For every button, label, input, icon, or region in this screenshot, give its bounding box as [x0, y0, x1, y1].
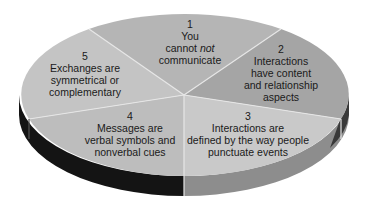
- slice-4-number: 4: [85, 110, 175, 122]
- slice-5-label: 5 Exchanges are symmetrical or complemen…: [49, 50, 121, 98]
- slice-2-line-3: and relationship: [244, 79, 318, 91]
- slice-3-line-1: Interactions are: [187, 122, 309, 134]
- slice-3-line-2: defined by the way people: [187, 134, 309, 146]
- slice-5-line-1: Exchanges are: [49, 62, 121, 74]
- slice-2-number: 2: [244, 43, 318, 55]
- slice-3-number: 3: [187, 110, 309, 122]
- slice-4-line-2: verbal symbols and: [85, 134, 175, 146]
- slice-2-line-2: have content: [244, 67, 318, 79]
- slice-3-line-3: punctuate events: [187, 146, 309, 158]
- slice-2-line-1: Interactions: [244, 55, 318, 67]
- slice-1-line-3: communicate: [159, 54, 221, 66]
- slice-1-number: 1: [159, 18, 221, 30]
- slice-4-line-1: Messages are: [85, 122, 175, 134]
- slice-1-line-2: cannot not: [159, 42, 221, 54]
- slice-1-line-1: You: [159, 30, 221, 42]
- slice-5-number: 5: [49, 50, 121, 62]
- slice-3-label: 3 Interactions are defined by the way pe…: [187, 110, 309, 158]
- slice-5-line-2: symmetrical or: [49, 74, 121, 86]
- slice-4-line-3: nonverbal cues: [85, 146, 175, 158]
- pie-diagram: 1 You cannot not communicate 2 Interacti…: [0, 0, 374, 204]
- slice-5-line-3: complementary: [49, 86, 121, 98]
- slice-4-label: 4 Messages are verbal symbols and nonver…: [85, 110, 175, 158]
- slice-2-line-4: aspects: [244, 91, 318, 103]
- slice-1-label: 1 You cannot not communicate: [159, 18, 221, 66]
- slice-2-label: 2 Interactions have content and relation…: [244, 43, 318, 103]
- slice-1-emphasis: not: [200, 42, 215, 54]
